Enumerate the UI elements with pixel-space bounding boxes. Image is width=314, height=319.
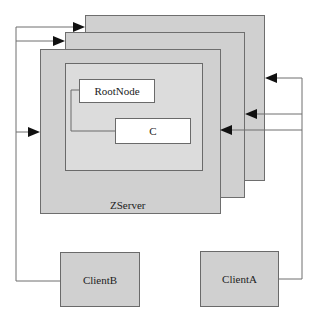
connection-lines [0, 0, 314, 319]
arrow-left-icon [245, 109, 257, 119]
arrow-left-icon [265, 73, 277, 83]
arrow-right-icon [73, 22, 85, 32]
arrow-right-icon [28, 127, 40, 137]
arrow-right-icon [53, 36, 65, 46]
arrow-left-icon [220, 125, 232, 135]
